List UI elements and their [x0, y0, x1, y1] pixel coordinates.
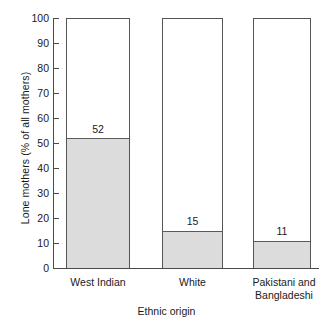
y-axis-tick-100	[53, 18, 59, 19]
y-axis-tick-label-20: 20	[23, 213, 49, 223]
x-axis-tick-label-pakistani-bangladeshi-line1: Pakistani and	[238, 276, 330, 289]
bar-value-label-pakistani-bangladeshi: 11	[253, 226, 311, 237]
bar-fill-west-indian	[66, 138, 130, 268]
x-axis-line	[53, 268, 319, 269]
x-axis-tick-label-west-indian-line1: West Indian	[50, 276, 146, 289]
bar-value-label-west-indian: 52	[66, 124, 130, 135]
y-axis-tick-label-30: 30	[23, 188, 49, 198]
y-axis-tick-90	[53, 43, 59, 44]
bar-fill-pakistani-bangladeshi	[253, 241, 311, 269]
bar-chart: Lone mothers (% of all mothers) 100 90 8…	[0, 0, 333, 327]
y-axis-tick-50	[53, 143, 59, 144]
y-axis-tick-60	[53, 118, 59, 119]
bar-fill-white	[162, 231, 223, 269]
y-axis-tick-40	[53, 168, 59, 169]
y-axis-tick-label-50: 50	[23, 138, 49, 148]
y-axis-tick-30	[53, 193, 59, 194]
y-axis-tick-label-10: 10	[23, 238, 49, 248]
y-axis-tick-label-0: 0	[23, 263, 49, 273]
y-axis-tick-80	[53, 68, 59, 69]
y-axis-tick-label-100: 100	[23, 13, 49, 23]
x-axis-tick-label-west-indian: West Indian	[50, 276, 146, 289]
y-axis-tick-label-40: 40	[23, 163, 49, 173]
x-axis-title: Ethnic origin	[0, 305, 333, 317]
x-axis-tick-label-white: White	[147, 276, 238, 289]
bar-value-label-white: 15	[162, 216, 223, 227]
x-axis-tick-label-white-line1: White	[147, 276, 238, 289]
y-axis-tick-10	[53, 243, 59, 244]
y-axis-tick-70	[53, 93, 59, 94]
y-axis-tick-20	[53, 218, 59, 219]
y-axis-tick-label-70: 70	[23, 88, 49, 98]
x-axis-tick-label-pakistani-bangladeshi-line2: Bangladeshi	[238, 289, 330, 302]
y-axis-tick-label-60: 60	[23, 113, 49, 123]
x-axis-tick-label-pakistani-bangladeshi: Pakistani and Bangladeshi	[238, 276, 330, 301]
y-axis-tick-label-90: 90	[23, 38, 49, 48]
y-axis-tick-label-80: 80	[23, 63, 49, 73]
